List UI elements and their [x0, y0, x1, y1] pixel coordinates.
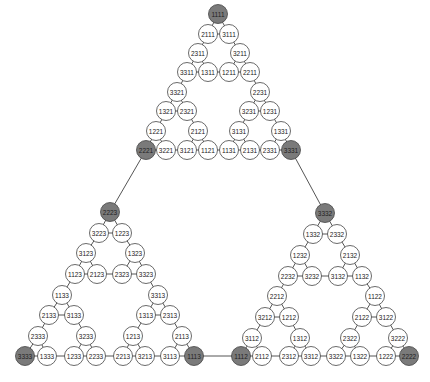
- node-label: 2311: [191, 50, 205, 57]
- node-label: 1111: [211, 11, 224, 18]
- node-label: 1331: [274, 128, 289, 135]
- graph-node: 3133: [65, 306, 84, 325]
- graph-edges: [25, 14, 409, 356]
- graph-node: 2232: [279, 267, 298, 286]
- graph-node: 1323: [126, 244, 145, 263]
- graph-node: 1131: [220, 141, 239, 160]
- graph-node: 1321: [157, 102, 176, 121]
- node-label: 3133: [67, 312, 82, 319]
- node-label: 3323: [139, 271, 154, 278]
- graph-node: 1223: [113, 224, 132, 243]
- extreme-node: 3332: [316, 204, 335, 223]
- graph-node: 2122: [353, 308, 372, 327]
- graph-node: 3223: [90, 224, 109, 243]
- node-label: 1223: [115, 230, 130, 237]
- graph-node: 2131: [241, 141, 260, 160]
- node-label: 1321: [159, 108, 174, 115]
- node-label: 3131: [232, 128, 247, 135]
- graph-edge: [110, 150, 146, 212]
- node-label: 2212: [270, 293, 285, 300]
- node-label: 1233: [67, 353, 82, 360]
- node-label: 1313: [139, 312, 154, 319]
- graph-node: 3232: [303, 267, 322, 286]
- node-label: 2112: [255, 353, 269, 360]
- graph-node: 3233: [77, 327, 96, 346]
- graph-node: 2313: [161, 306, 180, 325]
- graph-node: 3132: [329, 267, 348, 286]
- graph-node: 1212: [280, 308, 299, 327]
- node-label: 2321: [180, 108, 195, 115]
- extreme-node: 2221: [137, 141, 156, 160]
- graph-node: 1333: [38, 347, 57, 366]
- node-label: 2213: [116, 353, 131, 360]
- node-label: 2332: [330, 231, 345, 238]
- graph-node: 2332: [328, 225, 347, 244]
- graph-node: 3222: [389, 329, 408, 348]
- node-label: 3331: [284, 147, 299, 154]
- graph-node: 2123: [88, 265, 107, 284]
- node-label: 3312: [304, 353, 319, 360]
- graph-node: 3123: [77, 244, 96, 263]
- graph-node: 3322: [327, 347, 346, 366]
- graph-node: 1322: [351, 347, 370, 366]
- node-label: 2323: [115, 271, 130, 278]
- node-label: 1212: [282, 314, 297, 321]
- node-label: 3211: [233, 50, 247, 57]
- graph-node: 1233: [65, 347, 84, 366]
- node-label: 1333: [40, 353, 55, 360]
- graph-node: 2212: [268, 287, 287, 306]
- node-label: 1332: [306, 231, 321, 238]
- extreme-node: 1112: [232, 347, 251, 366]
- graph-node: 3121: [178, 141, 197, 160]
- graph-node: 3312: [302, 347, 321, 366]
- node-label: 2313: [163, 312, 178, 319]
- node-label: 1131: [222, 147, 236, 154]
- node-label: 2333: [31, 333, 46, 340]
- node-label: 3223: [92, 230, 107, 237]
- graph-node: 1123: [66, 265, 85, 284]
- graph-node: 3323: [137, 265, 156, 284]
- node-label: 2121: [191, 128, 206, 135]
- node-label: 2132: [343, 252, 358, 259]
- node-label: 3132: [331, 273, 346, 280]
- graph-node: 1133: [53, 286, 72, 305]
- graph-node: 1332: [304, 225, 323, 244]
- node-label: 1232: [293, 252, 308, 259]
- node-label: 1123: [68, 271, 82, 278]
- node-label: 3232: [305, 273, 320, 280]
- node-label: 1211: [222, 69, 236, 76]
- graph-node: 2321: [178, 102, 197, 121]
- node-label: 3313: [151, 292, 166, 299]
- graph-node: 1311: [199, 63, 218, 82]
- graph-edge: [291, 150, 325, 213]
- extreme-node: 3333: [16, 347, 35, 366]
- node-label: 1323: [128, 250, 143, 257]
- graph-node: 3111: [220, 25, 239, 44]
- node-label: 3333: [18, 353, 33, 360]
- node-label: 2211: [243, 69, 257, 76]
- node-label: 2133: [42, 312, 57, 319]
- node-label: 2331: [263, 147, 278, 154]
- node-label: 2231: [253, 89, 268, 96]
- graph-node: 2213: [114, 347, 133, 366]
- graph-node: 3211: [231, 44, 250, 63]
- node-label: 1112: [234, 353, 248, 360]
- graph-node: 1122: [366, 287, 385, 306]
- extreme-node: 2222: [400, 347, 419, 366]
- graph-node: 2323: [113, 265, 132, 284]
- graph-node: 2112: [253, 347, 272, 366]
- graph-node: 2121: [189, 122, 208, 141]
- node-label: 3122: [379, 314, 394, 321]
- graph-node: 3231: [240, 102, 259, 121]
- node-label: 3112: [245, 335, 259, 342]
- graph-node: 2211: [241, 63, 260, 82]
- graph-node: 1132: [353, 267, 372, 286]
- node-label: 3221: [159, 147, 174, 154]
- graph-node: 2132: [341, 246, 360, 265]
- node-label: 2222: [402, 353, 417, 360]
- node-label: 3123: [79, 250, 94, 257]
- graph-nodes: 1111211131112311321133111311121122113321…: [16, 5, 419, 366]
- graph-node: 1121: [199, 141, 218, 160]
- extreme-node: 1113: [185, 347, 204, 366]
- extreme-node: 3331: [282, 141, 301, 160]
